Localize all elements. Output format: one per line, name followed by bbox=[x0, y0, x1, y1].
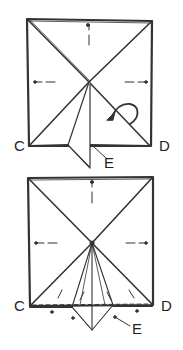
step-2-diagram bbox=[28, 177, 153, 330]
origami-diagram: C D E C D E bbox=[0, 0, 183, 350]
corner-label-c: C bbox=[14, 137, 25, 154]
corner-label-d: D bbox=[159, 137, 170, 154]
corner-label-d: D bbox=[161, 297, 172, 314]
flap-label-e: E bbox=[104, 154, 114, 171]
corner-label-c: C bbox=[14, 297, 25, 314]
flap-label-e: E bbox=[132, 320, 142, 337]
step-1-diagram bbox=[27, 19, 152, 168]
